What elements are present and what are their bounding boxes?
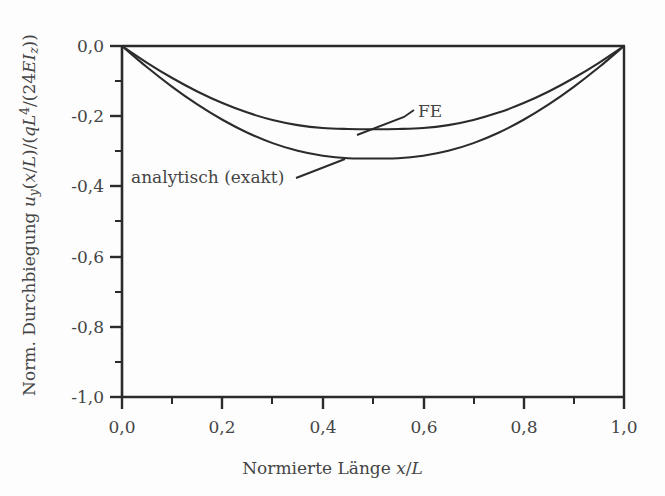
y-axis-title-L1: L — [19, 156, 39, 167]
y-axis-title-slash2: /(24 — [19, 73, 39, 107]
x-axis-title-text: Normierte Länge — [242, 458, 396, 478]
y-tick-label-1: -0,2 — [58, 106, 104, 126]
y-axis-title-x1: x — [19, 173, 39, 183]
y-axis-title-slash1: / — [19, 167, 39, 173]
y-axis-title-L2: L — [19, 115, 39, 126]
axis-frame — [122, 46, 625, 397]
leader-line-analytisch — [296, 159, 345, 178]
leader-line-fe — [357, 110, 414, 135]
x-axis-title: Normierte Länge x/L — [0, 458, 665, 478]
y-axis-title-I: I — [19, 54, 39, 61]
y-tick-label-3: -0,6 — [58, 247, 104, 267]
y-axis-title-u-subscript: y — [27, 189, 41, 196]
x-tick-label-2: 0,4 — [309, 417, 336, 437]
y-axis-title-I-subscript: z — [27, 47, 41, 53]
y-axis-title-text: Norm. Durchbiegung — [19, 207, 39, 396]
y-axis-title-q: q — [19, 126, 39, 137]
y-axis-title-mid: )/( — [19, 137, 39, 156]
x-axis-title-var-x: x — [396, 458, 406, 478]
figure-container: 0,0 0,2 0,4 0,6 0,8 1,0 0,0 -0,2 -0,4 -0… — [0, 0, 665, 496]
x-axis-title-var-L: L — [412, 458, 423, 478]
curve-analytisch-exakt — [122, 46, 624, 159]
x-tick-label-5: 1,0 — [610, 417, 637, 437]
y-tick-label-4: -0,8 — [58, 317, 104, 337]
x-tick-label-4: 0,8 — [510, 417, 537, 437]
annotation-fe: FE — [418, 101, 442, 121]
curve-fe — [122, 46, 624, 129]
annotation-leaders — [296, 110, 414, 178]
x-tick-label-0: 0,0 — [108, 417, 135, 437]
y-tick-label-0: 0,0 — [58, 36, 104, 56]
x-tick-label-3: 0,6 — [410, 417, 437, 437]
y-axis-title-u: u — [19, 196, 39, 207]
data-curves — [122, 46, 624, 159]
y-axis-title-E: E — [19, 61, 39, 73]
y-axis-title: Norm. Durchbiegung uy(x/L)/(qL4/(24EIz)) — [18, 5, 52, 425]
y-axis-title-close: )) — [19, 34, 39, 47]
y-tick-label-2: -0,4 — [58, 176, 104, 196]
x-tick-label-1: 0,2 — [208, 417, 235, 437]
y-axis-title-L2-superscript: 4 — [18, 107, 32, 115]
annotation-analytisch-exakt: analytisch (exakt) — [131, 167, 284, 187]
y-tick-label-5: -1,0 — [58, 387, 104, 407]
y-axis-title-paren-open: ( — [19, 183, 39, 190]
